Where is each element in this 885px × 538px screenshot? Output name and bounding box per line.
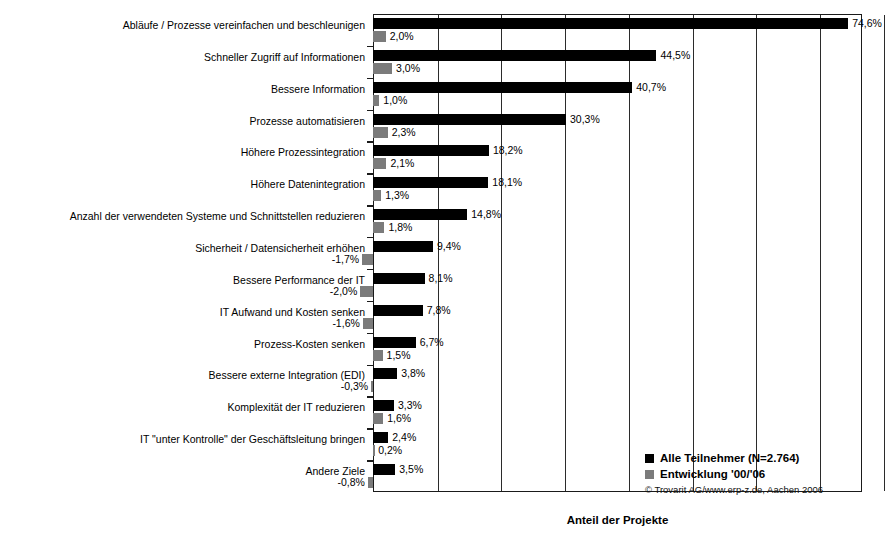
bar-alle-teilnehmer — [373, 50, 656, 61]
category-label: IT "unter Kontrolle" der Geschäftsleitun… — [0, 433, 365, 445]
axis-tick — [367, 46, 374, 47]
bar-value-label-entwicklung: 3,0% — [396, 63, 420, 74]
bar-value-label-entwicklung: 0,2% — [378, 445, 402, 456]
bar-value-label-entwicklung: 1,8% — [388, 222, 412, 233]
bar-entwicklung — [373, 158, 386, 169]
bar-alle-teilnehmer — [373, 273, 425, 284]
bar-value-label-alle-teilnehmer: 18,2% — [493, 145, 523, 156]
bar-entwicklung-negative — [363, 318, 373, 329]
legend-swatch-gray-icon — [645, 470, 654, 479]
category-label: Prozesse automatisieren — [0, 115, 365, 127]
axis-tick — [367, 396, 374, 397]
legend-label-entwicklung: Entwicklung '00/'06 — [660, 468, 765, 480]
bar-value-label-alle-teilnehmer: 8,1% — [429, 273, 453, 284]
bar-value-label-entwicklung: 1,5% — [387, 350, 411, 361]
bar-alle-teilnehmer — [373, 305, 423, 316]
category-label: Sicherheit / Datensicherheit erhöhen — [0, 242, 365, 254]
bar-value-label-alle-teilnehmer: 3,8% — [401, 368, 425, 379]
category-label: Bessere externe Integration (EDI) — [0, 369, 365, 381]
bar-value-label-alle-teilnehmer: 40,7% — [636, 82, 666, 93]
bar-value-label-entwicklung: 1,3% — [385, 190, 409, 201]
bar-alle-teilnehmer — [373, 241, 433, 252]
category-label: Abläufe / Prozesse vereinfachen und besc… — [0, 19, 365, 31]
category-label: Höhere Datenintegration — [0, 178, 365, 190]
bar-entwicklung-negative — [368, 477, 373, 488]
bar-value-label-alle-teilnehmer: 44,5% — [660, 50, 690, 61]
gridline-50 — [693, 15, 694, 491]
bar-value-label-alle-teilnehmer: 3,3% — [398, 400, 422, 411]
bar-value-label-entwicklung: -1,7% — [332, 254, 359, 265]
axis-tick — [367, 365, 374, 366]
category-label: Anzahl der verwendeten Systeme und Schni… — [0, 210, 365, 222]
bar-value-label-alle-teilnehmer: 2,4% — [392, 432, 416, 443]
category-label: Prozess-Kosten senken — [0, 338, 365, 350]
gridline-70 — [820, 15, 821, 491]
bar-alle-teilnehmer — [373, 177, 488, 188]
legend-swatch-black-icon — [645, 454, 654, 463]
gridline-60 — [756, 15, 757, 491]
bar-alle-teilnehmer — [373, 464, 395, 475]
bar-alle-teilnehmer — [373, 400, 394, 411]
x-axis-title: Anteil der Projekte — [373, 514, 862, 526]
bar-value-label-alle-teilnehmer: 74,6% — [852, 18, 882, 29]
category-label: Schneller Zugriff auf Informationen — [0, 51, 365, 63]
axis-tick — [367, 460, 374, 461]
copyright-notice: © Trovarit AG/www.erp-z.de, Aachen 2006 — [645, 484, 855, 495]
bar-entwicklung-negative — [371, 381, 373, 392]
category-label: IT Aufwand und Kosten senken — [0, 306, 365, 318]
bar-value-label-entwicklung: -1,6% — [332, 318, 359, 329]
bar-entwicklung-negative — [360, 286, 373, 297]
bar-value-label-entwicklung: 2,3% — [392, 127, 416, 138]
axis-tick — [367, 141, 374, 142]
bar-value-label-alle-teilnehmer: 7,8% — [427, 305, 451, 316]
axis-tick — [367, 78, 374, 79]
bar-alle-teilnehmer — [373, 18, 848, 29]
category-label: Komplexität der IT reduzieren — [0, 401, 365, 413]
bar-entwicklung — [373, 222, 384, 233]
category-label: Bessere Performance der IT — [0, 274, 365, 286]
legend-item-entwicklung: Entwicklung '00/'06 — [645, 468, 855, 480]
bar-alle-teilnehmer — [373, 82, 632, 93]
bar-value-label-entwicklung: 1,0% — [383, 95, 407, 106]
axis-tick — [367, 110, 374, 111]
legend-label-alle-teilnehmer: Alle Teilnehmer (N=2.764) — [660, 452, 799, 464]
bar-entwicklung — [373, 445, 375, 456]
legend-item-alle-teilnehmer: Alle Teilnehmer (N=2.764) — [645, 452, 855, 464]
axis-tick — [367, 333, 374, 334]
bar-alle-teilnehmer — [373, 145, 489, 156]
bar-value-label-alle-teilnehmer: 14,8% — [471, 209, 501, 220]
bar-entwicklung — [373, 190, 381, 201]
category-label: Andere Ziele — [0, 465, 365, 477]
bar-entwicklung — [373, 95, 379, 106]
bar-value-label-entwicklung: -0,3% — [341, 381, 368, 392]
bar-entwicklung — [373, 63, 392, 74]
bar-value-label-entwicklung: -2,0% — [330, 286, 357, 297]
bar-value-label-alle-teilnehmer: 30,3% — [570, 114, 600, 125]
category-label: Bessere Information — [0, 83, 365, 95]
gridline-80 — [884, 15, 885, 491]
bar-entwicklung — [373, 350, 383, 361]
axis-tick — [367, 428, 374, 429]
bar-alle-teilnehmer — [373, 337, 416, 348]
bar-entwicklung — [373, 413, 383, 424]
bar-alle-teilnehmer — [373, 114, 566, 125]
bar-value-label-entwicklung: -0,8% — [337, 477, 364, 488]
axis-tick — [367, 301, 374, 302]
bar-value-label-alle-teilnehmer: 9,4% — [437, 241, 461, 252]
axis-tick — [367, 173, 374, 174]
axis-tick — [367, 269, 374, 270]
bar-value-label-entwicklung: 2,0% — [390, 31, 414, 42]
axis-tick — [367, 237, 374, 238]
bar-alle-teilnehmer — [373, 432, 388, 443]
bar-value-label-alle-teilnehmer: 18,1% — [492, 177, 522, 188]
chart-legend: Alle Teilnehmer (N=2.764) Entwicklung '0… — [645, 452, 855, 495]
bar-alle-teilnehmer — [373, 209, 467, 220]
bar-entwicklung-negative — [362, 254, 373, 265]
bar-entwicklung — [373, 127, 388, 138]
bar-entwicklung — [373, 31, 386, 42]
bar-value-label-alle-teilnehmer: 6,7% — [420, 337, 444, 348]
bar-alle-teilnehmer — [373, 368, 397, 379]
category-label: Höhere Prozessintegration — [0, 146, 365, 158]
axis-tick — [367, 205, 374, 206]
